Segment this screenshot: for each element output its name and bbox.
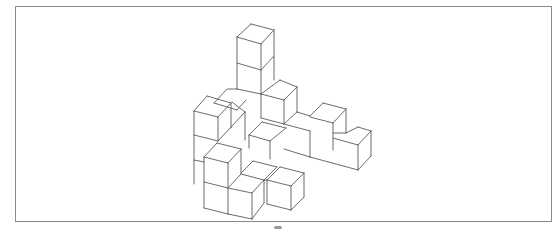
cube-edge bbox=[358, 156, 371, 170]
cube-edge bbox=[253, 161, 277, 167]
cube-edge bbox=[204, 157, 228, 163]
cube-edge bbox=[237, 89, 261, 94]
cube-edge bbox=[333, 138, 358, 145]
cube-edge bbox=[228, 188, 252, 193]
cube-edge bbox=[310, 157, 358, 170]
cube-edge bbox=[264, 167, 277, 180]
cube-edge bbox=[333, 109, 346, 123]
cube-edge bbox=[194, 111, 218, 117]
cube-edge bbox=[280, 167, 304, 173]
cube-edge bbox=[228, 149, 241, 163]
cube-edge bbox=[204, 143, 217, 157]
cube-edge bbox=[291, 173, 304, 186]
cube-edge bbox=[249, 135, 270, 141]
cube-edge bbox=[261, 56, 274, 70]
cube-edge bbox=[241, 161, 253, 173]
cube-edge bbox=[267, 204, 291, 210]
cube-edge bbox=[194, 135, 218, 141]
cube-edge bbox=[204, 208, 228, 214]
cube-edge bbox=[228, 214, 252, 219]
cube-edge bbox=[284, 149, 310, 157]
cube-edge bbox=[237, 63, 261, 70]
cube-edge bbox=[267, 180, 291, 186]
cube-edge bbox=[270, 128, 286, 141]
cube-edge bbox=[267, 167, 280, 180]
cube-edge bbox=[261, 118, 284, 124]
cube-edge bbox=[194, 96, 207, 111]
cube-edge bbox=[241, 174, 264, 180]
cube-edge bbox=[228, 174, 241, 188]
isometric-cube-diagram bbox=[0, 0, 557, 232]
cube-edge bbox=[217, 143, 241, 149]
cube-edge bbox=[280, 80, 297, 87]
cube-edge bbox=[249, 122, 262, 135]
cube-edge bbox=[237, 24, 251, 37]
cube-edge bbox=[310, 103, 323, 116]
cube-edge bbox=[261, 80, 280, 94]
cube-edge bbox=[310, 117, 333, 123]
cube-edge bbox=[252, 180, 264, 193]
cube-edge bbox=[358, 131, 371, 145]
cube-edge bbox=[237, 100, 246, 110]
cube-edge bbox=[252, 203, 264, 219]
cube-edge bbox=[218, 112, 245, 141]
cube-edge bbox=[358, 127, 371, 131]
cube-edge bbox=[237, 37, 261, 44]
page-mark bbox=[274, 226, 282, 229]
cube-edge bbox=[204, 182, 228, 188]
cube-edge bbox=[194, 160, 204, 162]
cube-edge bbox=[262, 122, 286, 128]
cube-edge bbox=[261, 30, 274, 44]
cube-edge bbox=[297, 112, 310, 116]
cube-edge bbox=[284, 124, 310, 131]
cube-edge bbox=[323, 103, 346, 109]
cube-edge bbox=[346, 127, 358, 133]
cube-edge bbox=[261, 94, 284, 100]
cube-edge bbox=[284, 112, 297, 124]
cube-edge bbox=[251, 24, 274, 30]
cube-edge bbox=[291, 197, 304, 210]
cube-edge bbox=[284, 87, 297, 100]
